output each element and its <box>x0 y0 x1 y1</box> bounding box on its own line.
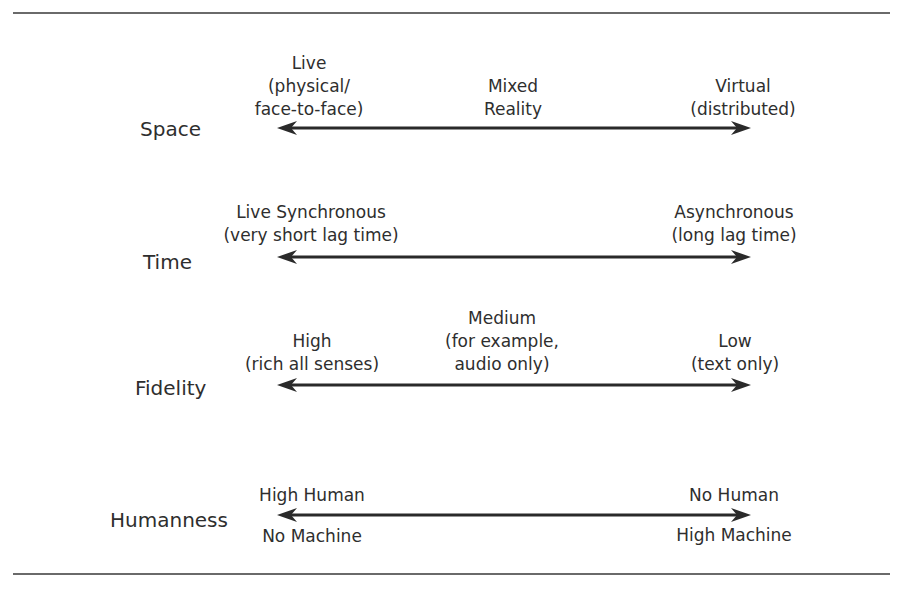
fidelity-right-label: Low (text only) <box>691 330 779 376</box>
label-line: audio only) <box>445 353 559 376</box>
label-line: (physical/ <box>255 75 364 98</box>
humanness-right-below-label: High Machine <box>676 524 792 547</box>
label-line: Medium <box>445 307 559 330</box>
label-line: (very short lag time) <box>223 224 398 247</box>
label-line: Asynchronous <box>671 201 796 224</box>
humanness-right-above-label: No Human <box>689 484 779 507</box>
humanness-left-below-label: No Machine <box>262 525 362 548</box>
label-line: (rich all senses) <box>245 353 379 376</box>
time-right-label: Asynchronous (long lag time) <box>671 201 796 247</box>
label-line: (distributed) <box>690 98 796 121</box>
fidelity-left-label: High (rich all senses) <box>245 330 379 376</box>
dimension-label: Space <box>140 117 201 141</box>
double-arrow-icon <box>277 121 751 135</box>
dimension-label: Fidelity <box>135 376 206 400</box>
label-line: Virtual <box>690 75 796 98</box>
label-line: Low <box>691 330 779 353</box>
dimension-label: Humanness <box>110 508 228 532</box>
label-line: Reality <box>484 98 542 121</box>
fidelity-middle-label: Medium (for example, audio only) <box>445 307 559 376</box>
label-line: High <box>245 330 379 353</box>
label-line: face-to-face) <box>255 98 364 121</box>
bottom-rule <box>13 573 890 575</box>
space-middle-label: Mixed Reality <box>484 75 542 121</box>
label-line: (text only) <box>691 353 779 376</box>
space-left-label: Live (physical/ face-to-face) <box>255 52 364 121</box>
label-line: Live Synchronous <box>223 201 398 224</box>
humanness-left-above-label: High Human <box>259 484 365 507</box>
space-right-label: Virtual (distributed) <box>690 75 796 121</box>
double-arrow-icon <box>277 250 751 264</box>
dimension-label: Time <box>143 250 192 274</box>
label-line: Live <box>255 52 364 75</box>
time-left-label: Live Synchronous (very short lag time) <box>223 201 398 247</box>
label-line: (long lag time) <box>671 224 796 247</box>
double-arrow-icon <box>277 378 751 392</box>
double-arrow-icon <box>277 508 751 522</box>
label-line: (for example, <box>445 330 559 353</box>
top-rule <box>13 12 890 14</box>
label-line: Mixed <box>484 75 542 98</box>
